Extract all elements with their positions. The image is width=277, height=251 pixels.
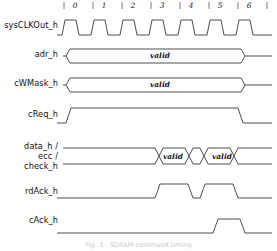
waveform-rdack [57, 184, 272, 198]
waveform-data-ecc-check [63, 148, 272, 164]
figure-caption: Fig. 3 - SDRAM command timing [0, 241, 277, 249]
waveform-cack [57, 219, 272, 233]
timing-diagram-figure: 0 1 2 3 4 5 6 sysCLKOut_h adr_h cWMask_h… [0, 0, 277, 251]
waveform-cwmask [63, 78, 272, 92]
waveform-creq [57, 108, 272, 123]
waveform-canvas [0, 0, 277, 251]
axis-tick-marks [64, 2, 267, 9]
waveform-sysclkout [57, 20, 272, 35]
waveform-adr [63, 49, 272, 63]
